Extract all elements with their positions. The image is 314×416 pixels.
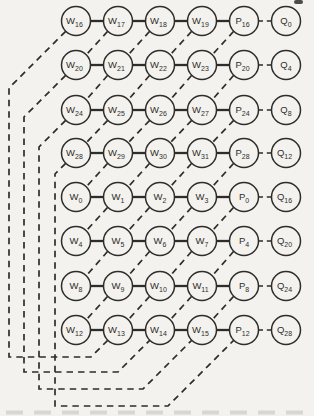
- edge-diagonal-r0-c1: [86, 31, 107, 54]
- edge-diagonal-r2-c1: [86, 120, 107, 142]
- edge-diagonal-r0-c3: [170, 31, 191, 54]
- node-W27: W27: [188, 96, 217, 125]
- edge-diagonal-r6-c2: [128, 296, 149, 319]
- edge-diagonal-r5-c3: [170, 251, 191, 275]
- edge-diagonal-r2-c4: [212, 120, 233, 142]
- edge-diagonal-r4-c1: [86, 207, 107, 230]
- node-W13: W13: [104, 316, 133, 345]
- node-P8: P8: [230, 272, 259, 301]
- edge-diagonal-r4-c3: [170, 207, 191, 230]
- node-W25: W25: [104, 96, 133, 125]
- node-W11: W11: [188, 272, 217, 301]
- node-Q8: Q8: [272, 96, 301, 125]
- edge-diagonal-r2-c2: [128, 120, 149, 142]
- node-W18: W18: [146, 7, 175, 36]
- node-W20: W20: [62, 51, 91, 80]
- node-Q0: Q0: [272, 7, 301, 36]
- edge-diagonal-r3-c3: [170, 163, 191, 186]
- node-Q4: Q4: [272, 51, 301, 80]
- node-P16: P16: [230, 7, 259, 36]
- edge-diagonal-r0-c4: [212, 31, 233, 54]
- edge-diagonal-r4-c4: [212, 207, 233, 230]
- node-W1: W1: [104, 183, 133, 212]
- node-W3: W3: [188, 183, 217, 212]
- node-P24: P24: [230, 96, 259, 125]
- node-W8: W8: [62, 272, 91, 301]
- node-W17: W17: [104, 7, 133, 36]
- diagram-canvas: W16W17W18W19P16Q0W20W21W22W23P20Q4W24W25…: [0, 0, 314, 416]
- edge-diagonal-r4-c2: [128, 207, 149, 230]
- node-Q12: Q12: [272, 139, 301, 168]
- node-Q16: Q16: [272, 183, 301, 212]
- node-Q20: Q20: [272, 227, 301, 256]
- node-P12: P12: [230, 316, 259, 345]
- edge-diagonal-r6-c3: [170, 296, 191, 319]
- node-W4: W4: [62, 227, 91, 256]
- scan-artifact-speck: [294, 0, 303, 4]
- edge-wraparound-0: [9, 31, 108, 357]
- edge-diagonal-r1-c1: [86, 75, 107, 99]
- edge-diagonal-r6-c1: [86, 296, 107, 319]
- node-W14: W14: [146, 316, 175, 345]
- node-W6: W6: [146, 227, 175, 256]
- node-W5: W5: [104, 227, 133, 256]
- node-W9: W9: [104, 272, 133, 301]
- edge-diagonal-r2-c3: [170, 120, 191, 142]
- node-W22: W22: [146, 51, 175, 80]
- node-P20: P20: [230, 51, 259, 80]
- node-W2: W2: [146, 183, 175, 212]
- node-W10: W10: [146, 272, 175, 301]
- node-W26: W26: [146, 96, 175, 125]
- node-P28: P28: [230, 139, 259, 168]
- node-Q28: Q28: [272, 316, 301, 345]
- node-P4: P4: [230, 227, 259, 256]
- edge-diagonal-r5-c2: [128, 251, 149, 275]
- node-W29: W29: [104, 139, 133, 168]
- node-W0: W0: [62, 183, 91, 212]
- node-P0: P0: [230, 183, 259, 212]
- edge-diagonal-r3-c2: [128, 163, 149, 186]
- node-W28: W28: [62, 139, 91, 168]
- node-W30: W30: [146, 139, 175, 168]
- edge-diagonal-r5-c1: [86, 251, 107, 275]
- edge-diagonal-r1-c2: [128, 75, 149, 99]
- node-W23: W23: [188, 51, 217, 80]
- node-W31: W31: [188, 139, 217, 168]
- node-W12: W12: [62, 316, 91, 345]
- node-Q24: Q24: [272, 272, 301, 301]
- node-W24: W24: [62, 96, 91, 125]
- edge-diagonal-r5-c4: [212, 251, 233, 275]
- edge-diagonal-r0-c2: [128, 31, 149, 54]
- node-W19: W19: [188, 7, 217, 36]
- edge-diagonal-r1-c4: [212, 75, 233, 99]
- edge-diagonal-r1-c3: [170, 75, 191, 99]
- edge-diagonal-r3-c4: [212, 163, 233, 186]
- edge-diagonal-r6-c4: [212, 296, 233, 319]
- node-W21: W21: [104, 51, 133, 80]
- node-W16: W16: [62, 7, 91, 36]
- node-W15: W15: [188, 316, 217, 345]
- node-W7: W7: [188, 227, 217, 256]
- edge-diagonal-r3-c1: [86, 163, 107, 186]
